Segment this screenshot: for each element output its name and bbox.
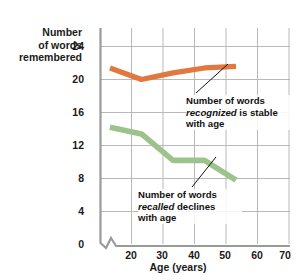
annotation-recognized-line-1: Number of words (186, 95, 298, 107)
annotation-recalled-line-1: Number of words (138, 189, 242, 201)
annotation-recognized-line-3: with age (186, 118, 298, 130)
memory-aging-line-chart: Number of words remembered 24 20 16 12 8… (0, 0, 299, 280)
annotation-recognized: Number of words recognized is stable wit… (186, 95, 298, 130)
annotation-recalled-line-3: with age (138, 212, 242, 224)
annotation-recalled: Number of words recalled declines with a… (138, 189, 242, 224)
plot-area (0, 0, 299, 280)
annotation-recalled-line-2: recalled declines (138, 201, 242, 213)
annotation-recognized-line-2: recognized is stable (186, 107, 298, 119)
